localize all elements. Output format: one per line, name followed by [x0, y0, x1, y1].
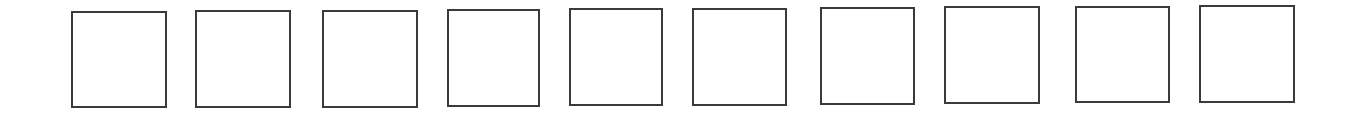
empty-box-1[interactable]: [71, 11, 167, 108]
empty-box-7[interactable]: [820, 7, 915, 105]
empty-box-5[interactable]: [569, 8, 663, 106]
empty-box-9[interactable]: [1075, 6, 1170, 103]
empty-box-4[interactable]: [447, 9, 540, 107]
empty-box-2[interactable]: [195, 10, 291, 108]
empty-box-6[interactable]: [692, 8, 787, 106]
empty-box-3[interactable]: [322, 10, 418, 108]
empty-box-10[interactable]: [1199, 5, 1295, 103]
empty-box-8[interactable]: [944, 6, 1040, 104]
